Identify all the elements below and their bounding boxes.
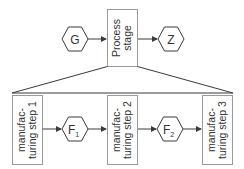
subscript-f2: 2 [170, 131, 174, 138]
fan-line-left [12, 67, 108, 94]
step1-line2: turing step 1 [26, 101, 38, 159]
subscript-f1: 1 [75, 131, 79, 138]
process-stage-box: Process stage [108, 10, 138, 67]
process-stage-line1: Process [110, 19, 122, 57]
manufacturing-step-3: manufac- turing step 3 [203, 96, 233, 165]
label-f1: F [68, 123, 75, 137]
label-g: G [70, 33, 79, 47]
output-node-z: Z [158, 27, 184, 51]
input-node-g: G [62, 27, 88, 51]
step2-line2: turing step 2 [121, 101, 133, 159]
label-z: Z [167, 33, 174, 47]
step1-line1: manufac- [15, 108, 27, 152]
step2-line1: manufac- [110, 108, 122, 152]
manufacturing-step-2: manufac- turing step 2 [108, 96, 138, 165]
label-f2: F [163, 123, 170, 137]
step3-line1: manufac- [205, 108, 217, 152]
manufacturing-step-1: manufac- turing step 1 [13, 96, 43, 165]
fan-line-right [138, 67, 234, 94]
process-diagram: G Process stage Z manufac- turing step 1… [0, 0, 244, 169]
step3-line2: turing step 3 [216, 101, 228, 159]
process-stage-line2: stage [121, 25, 133, 51]
intermediate-node-f1: F1 [62, 117, 88, 141]
intermediate-node-f2: F2 [157, 117, 183, 141]
